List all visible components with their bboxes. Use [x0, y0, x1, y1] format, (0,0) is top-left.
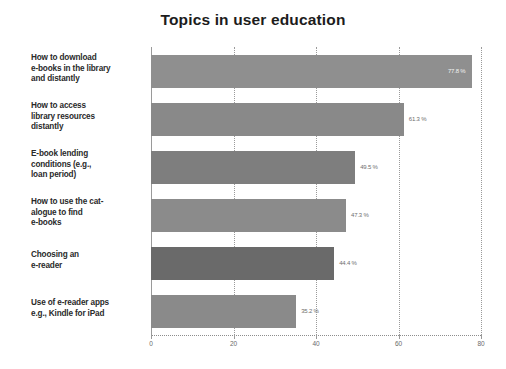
category-label-line: alogue to find [31, 208, 149, 219]
bar [151, 151, 355, 184]
category-label: Choosing ane-reader [31, 250, 149, 271]
bar-value-label: 44.4 % [339, 260, 356, 266]
x-tick-mark [481, 335, 482, 339]
bar-row: 77.8 % [151, 55, 481, 88]
category-label-line: How to access [31, 101, 149, 112]
bar [151, 55, 472, 88]
bar-row: 49.5 % [151, 151, 481, 184]
gridline [481, 47, 482, 335]
x-tick-label: 0 [136, 340, 166, 347]
x-tick-mark [316, 335, 317, 339]
x-tick-mark [234, 335, 235, 339]
bar-row: 61.3 % [151, 103, 481, 136]
chart-title: Topics in user education [0, 11, 506, 29]
category-label: How to accesslibrary resourcesdistantly [31, 101, 149, 133]
category-label-line: and distantly [31, 74, 149, 85]
gridline [316, 47, 317, 335]
bar-value-label: 49.5 % [360, 164, 377, 170]
category-label-line: conditions (e.g., [31, 160, 149, 171]
x-tick-mark [151, 335, 152, 339]
category-label: How to use the cat-alogue to finde-books [31, 197, 149, 229]
category-label-line: E-book lending [31, 149, 149, 160]
category-label-line: distantly [31, 122, 149, 133]
x-tick-label: 40 [301, 340, 331, 347]
bar-value-label: 61.3 % [409, 116, 426, 122]
bar [151, 103, 404, 136]
bar [151, 295, 296, 328]
gridline [399, 47, 400, 335]
category-label-line: library resources [31, 112, 149, 123]
bar [151, 247, 334, 280]
category-label: E-book lendingconditions (e.g.,loan peri… [31, 149, 149, 181]
bar [151, 199, 346, 232]
bar-value-label: 47.3 % [351, 212, 368, 218]
y-axis-line [151, 47, 152, 335]
x-tick-label: 80 [466, 340, 496, 347]
bar-row: 47.3 % [151, 199, 481, 232]
bar-row: 44.4 % [151, 247, 481, 280]
x-tick-label: 20 [219, 340, 249, 347]
bar-value-label: 77.8 % [448, 68, 465, 74]
category-label-line: e.g., Kindle for iPad [31, 309, 149, 320]
category-label-line: How to use the cat- [31, 197, 149, 208]
category-label-line: e-books [31, 218, 149, 229]
category-label-line: e-reader [31, 261, 149, 272]
bar-value-label: 35.2 % [301, 308, 318, 314]
gridline [234, 47, 235, 335]
x-tick-mark [399, 335, 400, 339]
category-label: Use of e-reader appse.g., Kindle for iPa… [31, 298, 149, 319]
bar-chart-figure: Topics in user education 77.8 %61.3 %49.… [0, 0, 506, 369]
category-label-line: Choosing an [31, 250, 149, 261]
category-label: How to downloade-books in the libraryand… [31, 53, 149, 85]
category-label-line: Use of e-reader apps [31, 298, 149, 309]
x-tick-label: 60 [384, 340, 414, 347]
category-label-line: e-books in the library [31, 64, 149, 75]
bar-row: 35.2 % [151, 295, 481, 328]
plot-area: 77.8 %61.3 %49.5 %47.3 %44.4 %35.2 % [151, 47, 481, 335]
category-label-line: loan period) [31, 170, 149, 181]
category-label-line: How to download [31, 53, 149, 64]
